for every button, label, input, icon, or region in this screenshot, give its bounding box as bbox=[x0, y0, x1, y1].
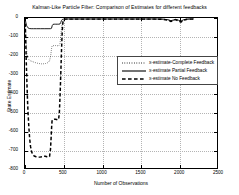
chart-title: Kalman-Like Particle Filter: Comparison … bbox=[0, 4, 239, 10]
legend-label: x-estimate Partial Feedback bbox=[149, 67, 207, 75]
series-line-3 bbox=[25, 18, 194, 157]
legend-label: x-estimate No Feedback bbox=[149, 75, 200, 83]
chart-figure: Kalman-Like Particle Filter: Comparison … bbox=[0, 0, 239, 195]
y-axis-tick-label: 0 bbox=[15, 15, 18, 20]
legend-item[interactable]: x-estimate No Feedback bbox=[121, 75, 217, 83]
x-axis-tick-label: 500 bbox=[59, 171, 67, 176]
x-axis-tick-label: 1500 bbox=[135, 171, 145, 176]
y-axis-title: State Estimate bbox=[6, 66, 12, 126]
y-axis-tick-label: -700 bbox=[9, 148, 18, 153]
legend-swatch-solid bbox=[121, 67, 147, 75]
x-axis-tick-label: 2000 bbox=[174, 171, 184, 176]
plot-area bbox=[24, 17, 218, 169]
series-layer bbox=[25, 18, 217, 168]
plot-inner bbox=[25, 18, 217, 168]
x-axis-tick-label: 2500 bbox=[213, 171, 223, 176]
legend-label: x-estimate-Complete Feedback bbox=[149, 59, 214, 67]
x-axis-tick-label: 1000 bbox=[96, 171, 106, 176]
legend-swatch-dotted bbox=[121, 59, 147, 67]
legend-item[interactable]: x-estimate Partial Feedback bbox=[121, 67, 217, 75]
y-axis-tick-label: -100 bbox=[9, 34, 18, 39]
x-axis-tick-label: 0 bbox=[23, 171, 26, 176]
y-axis-tick-label: -200 bbox=[9, 53, 18, 58]
legend: x-estimate-Complete Feedbackx-estimate P… bbox=[117, 56, 218, 85]
y-axis-tick-label: -800 bbox=[9, 167, 18, 172]
y-axis-tick-label: -600 bbox=[9, 129, 18, 134]
x-axis-title: Number of Observations bbox=[24, 180, 218, 186]
legend-item[interactable]: x-estimate-Complete Feedback bbox=[121, 59, 217, 67]
legend-swatch-dashed bbox=[121, 75, 147, 83]
